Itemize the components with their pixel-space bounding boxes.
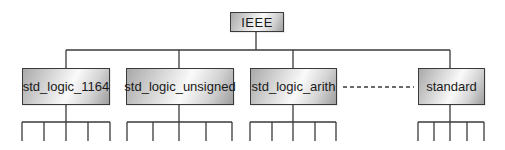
library-hierarchy-diagram: IEEE std_logic_1164 std_logic_unsigned s… — [0, 0, 505, 150]
root-node-label: IEEE — [241, 15, 273, 30]
package-node-label: std_logic_unsigned — [124, 79, 235, 94]
package-node-standard: standard — [418, 68, 485, 105]
package-node-label: std_logic_1164 — [23, 79, 110, 94]
package-node-std-logic-arith: std_logic_arith — [250, 68, 337, 105]
package-node-label: standard — [426, 79, 477, 94]
root-node-ieee: IEEE — [230, 12, 284, 32]
package-node-std-logic-1164: std_logic_1164 — [22, 68, 110, 105]
package-node-label: std_logic_arith — [252, 79, 336, 94]
package-node-std-logic-unsigned: std_logic_unsigned — [126, 68, 234, 105]
